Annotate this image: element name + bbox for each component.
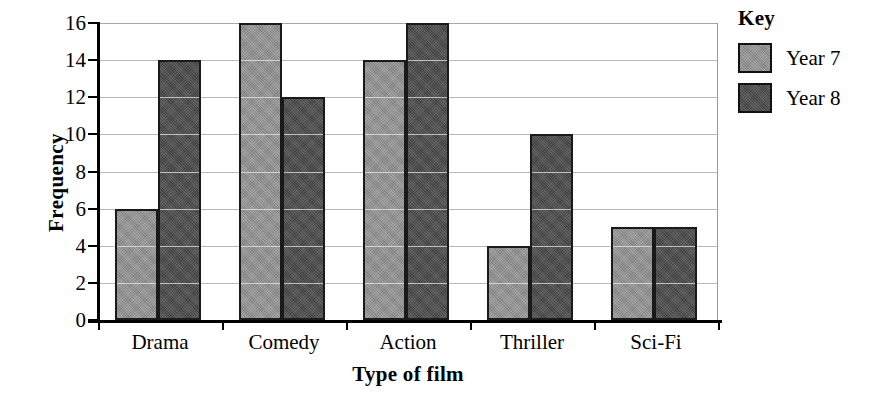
- x-axis-tick: [222, 321, 224, 330]
- legend: Key Year 7Year 8: [738, 6, 878, 123]
- bar-gridline: [160, 209, 199, 210]
- bar-gridline: [408, 246, 447, 247]
- x-axis-tick: [346, 321, 348, 330]
- y-axis-tick: [88, 171, 98, 173]
- bar-gridline: [284, 283, 323, 284]
- plot-area: [98, 23, 718, 320]
- bar-drama-year-7: [115, 209, 158, 320]
- bar-gridline: [117, 246, 156, 247]
- bar-drama-year-8: [158, 60, 201, 320]
- x-axis-line: [88, 320, 722, 323]
- legend-entry: Year 8: [738, 83, 878, 113]
- bar-thriller-year-7: [487, 246, 530, 320]
- bar-gridline: [160, 246, 199, 247]
- bar-thriller-year-8: [530, 134, 573, 320]
- bar-gridline: [241, 60, 280, 61]
- x-axis-tick-label-thriller: Thriller: [470, 330, 594, 355]
- y-axis-tick: [88, 96, 98, 98]
- y-axis-tick-label: 14: [42, 48, 86, 73]
- bar-gridline: [489, 283, 528, 284]
- bar-gridline: [241, 209, 280, 210]
- y-axis-tick-label: 10: [42, 122, 86, 147]
- bar-gridline: [408, 283, 447, 284]
- y-axis-tick: [88, 319, 98, 321]
- bar-gridline: [656, 283, 695, 284]
- bar-gridline: [532, 283, 571, 284]
- bar-gridline: [160, 283, 199, 284]
- y-axis-tick-label: 6: [42, 196, 86, 221]
- legend-label: Year 7: [786, 46, 840, 71]
- y-axis-tick: [88, 282, 98, 284]
- bar-gridline: [532, 209, 571, 210]
- x-axis-tick-label-comedy: Comedy: [222, 330, 346, 355]
- y-axis-tick-label: 8: [42, 159, 86, 184]
- y-axis-tick-labels: 0246810121416: [34, 0, 86, 402]
- bar-gridline: [284, 246, 323, 247]
- bar-gridline: [408, 209, 447, 210]
- legend-entry: Year 7: [738, 43, 878, 73]
- y-axis-tick-label: 2: [42, 270, 86, 295]
- legend-swatch-year-7: [738, 43, 772, 73]
- x-axis-tick: [98, 321, 100, 330]
- bar-action-year-7: [363, 60, 406, 320]
- legend-label: Year 8: [786, 86, 840, 111]
- bar-gridline: [241, 246, 280, 247]
- y-axis-tick-label: 16: [42, 11, 86, 36]
- y-axis-tick: [88, 133, 98, 135]
- y-axis-tick: [88, 59, 98, 61]
- x-axis-tick: [470, 321, 472, 330]
- y-axis-tick-label: 4: [42, 233, 86, 258]
- bar-gridline: [532, 172, 571, 173]
- y-axis-tick: [88, 208, 98, 210]
- bar-gridline: [241, 172, 280, 173]
- bar-gridline: [408, 60, 447, 61]
- bar-gridline: [160, 97, 199, 98]
- bar-gridline: [613, 283, 652, 284]
- x-axis-tick-label-sci-fi: Sci-Fi: [594, 330, 718, 355]
- bar-chart: Frequency 0246810121416 DramaComedyActio…: [0, 0, 878, 402]
- x-axis-tick-label-action: Action: [346, 330, 470, 355]
- bar-gridline: [241, 97, 280, 98]
- bar-gridline: [241, 283, 280, 284]
- bar-gridline: [613, 246, 652, 247]
- legend-swatch-year-8: [738, 83, 772, 113]
- bar-gridline: [365, 172, 404, 173]
- bar-gridline: [408, 134, 447, 135]
- bar-sci-fi-year-7: [611, 227, 654, 320]
- bar-gridline: [284, 209, 323, 210]
- y-axis-tick-label: 0: [42, 308, 86, 333]
- legend-entries: Year 7Year 8: [738, 43, 878, 113]
- y-axis-tick: [88, 22, 98, 24]
- bar-gridline: [365, 283, 404, 284]
- bar-gridline: [241, 134, 280, 135]
- bar-sci-fi-year-8: [654, 227, 697, 320]
- bar-gridline: [532, 246, 571, 247]
- x-axis-tick: [594, 321, 596, 330]
- bar-gridline: [117, 283, 156, 284]
- bar-gridline: [284, 134, 323, 135]
- bar-gridline: [284, 172, 323, 173]
- bar-gridline: [656, 246, 695, 247]
- bar-gridline: [408, 97, 447, 98]
- bar-action-year-8: [406, 23, 449, 320]
- bar-gridline: [365, 134, 404, 135]
- bar-gridline: [365, 246, 404, 247]
- y-axis-tick-label: 12: [42, 85, 86, 110]
- bar-gridline: [160, 172, 199, 173]
- bar-gridline: [365, 97, 404, 98]
- bar-gridline: [365, 209, 404, 210]
- x-axis-tick-label-drama: Drama: [98, 330, 222, 355]
- bar-gridline: [408, 172, 447, 173]
- y-axis-tick: [88, 245, 98, 247]
- x-axis-title: Type of film: [98, 362, 718, 387]
- bar-comedy-year-8: [282, 97, 325, 320]
- plot-right-border: [717, 23, 718, 320]
- bar-comedy-year-7: [239, 23, 282, 320]
- x-axis-tick: [718, 321, 720, 330]
- bar-gridline: [160, 134, 199, 135]
- legend-title: Key: [738, 6, 878, 31]
